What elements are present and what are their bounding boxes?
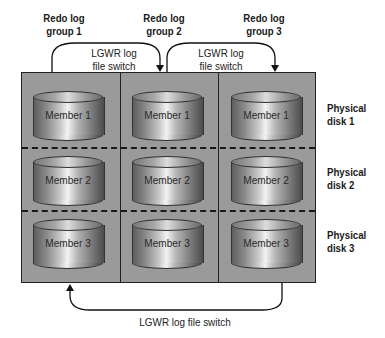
switch-label-3-to-1: LGWR log file switch: [118, 316, 253, 329]
switch-arrows: [0, 0, 385, 338]
arrowhead-icon: [271, 65, 279, 72]
arrow-switch-1-to-2: [52, 43, 160, 72]
arrow-switch-2-to-3: [167, 43, 275, 72]
arrow-switch-3-to-1: [70, 283, 282, 310]
arrowhead-icon: [156, 65, 164, 72]
arrowhead-icon: [66, 284, 74, 291]
